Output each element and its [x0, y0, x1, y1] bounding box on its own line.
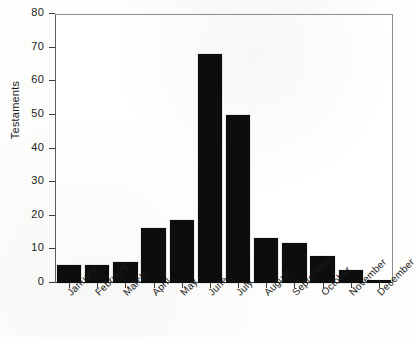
- y-tick-label: 10: [0, 241, 44, 253]
- y-tick-label: 20: [0, 208, 44, 220]
- bar-may: [170, 220, 194, 283]
- y-tick-label: 60: [0, 73, 44, 85]
- bar-july: [226, 115, 250, 283]
- y-tick-label: 70: [0, 40, 44, 52]
- y-tick-label: 30: [0, 174, 44, 186]
- y-tick-label: 80: [0, 6, 44, 18]
- bars-layer: [55, 14, 393, 283]
- y-tick-label: 0: [0, 275, 44, 287]
- bar-june: [198, 54, 222, 283]
- y-tick-label: 50: [0, 107, 44, 119]
- y-tick-label: 40: [0, 141, 44, 153]
